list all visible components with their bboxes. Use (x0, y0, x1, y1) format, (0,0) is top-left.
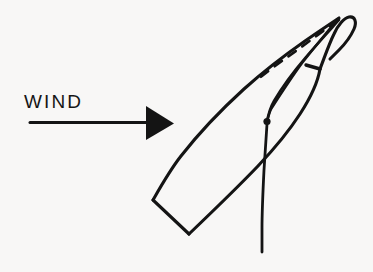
hull-group (153, 17, 355, 234)
mast-point-dot (263, 118, 270, 125)
sailboat-wind-diagram (0, 0, 373, 272)
tack-tick-path (306, 65, 320, 69)
wind-arrow-head-icon (146, 106, 174, 140)
hull-starboard-side-path (189, 69, 320, 234)
sail-group (262, 19, 339, 252)
figure-canvas: WIND (0, 0, 373, 272)
sheet-line-path (262, 124, 267, 252)
hull-port-side-path (153, 18, 339, 200)
bow-tip-path (320, 17, 355, 69)
wind-label: WIND (24, 92, 83, 111)
hull-transom-path (153, 200, 189, 234)
